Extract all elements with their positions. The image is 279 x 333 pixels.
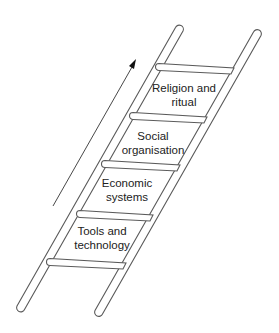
step-label-line1: Economic: [102, 176, 153, 190]
ladder-graphic: [0, 0, 279, 333]
rung-4: [130, 113, 208, 124]
step-label-economic-systems: Economic systems: [102, 176, 153, 204]
rung-5: [156, 64, 235, 75]
step-label-line1: Religion and: [152, 81, 216, 95]
rung-3: [102, 161, 180, 172]
step-label-line2: organisation: [122, 143, 185, 157]
step-label-social-organisation: Social organisation: [122, 129, 185, 157]
right-rail: [95, 30, 262, 317]
step-label-line2: ritual: [152, 95, 216, 109]
step-label-line1: Social: [122, 129, 185, 143]
rung-2: [77, 211, 154, 222]
step-label-tools-and-technology: Tools and technology: [74, 224, 130, 252]
step-label-line2: technology: [74, 238, 130, 252]
ladder-diagram: Religion and ritual Social organisation …: [0, 0, 279, 333]
step-label-line1: Tools and: [74, 224, 130, 238]
rung-1: [47, 259, 127, 270]
step-label-line2: systems: [102, 190, 153, 204]
step-label-religion-and-ritual: Religion and ritual: [152, 81, 216, 109]
